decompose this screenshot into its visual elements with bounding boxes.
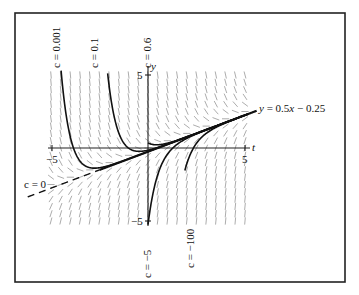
- slope-segment: [225, 181, 226, 188]
- slope-segment: [215, 71, 216, 78]
- slope-segment: [118, 93, 119, 100]
- slope-segment: [157, 181, 159, 188]
- tick-label-x-neg5: −5: [46, 153, 58, 165]
- slope-segment: [203, 117, 209, 121]
- slope-segment: [108, 137, 111, 144]
- curve-c-neg100: [185, 114, 249, 171]
- slope-segment: [234, 86, 237, 93]
- slope-segment: [70, 93, 71, 100]
- slope-segment: [136, 138, 141, 143]
- slope-segment: [68, 182, 74, 186]
- slope-segment: [206, 203, 207, 210]
- slope-segment: [87, 175, 93, 179]
- slope-segment: [156, 159, 159, 165]
- slope-segment: [68, 160, 72, 166]
- slope-segment: [215, 203, 216, 210]
- slope-segment: [225, 166, 226, 173]
- slope-segment: [165, 123, 169, 129]
- slope-segment: [118, 210, 119, 217]
- slope-segment: [118, 86, 119, 93]
- slope-segment: [175, 116, 178, 122]
- slope-segment: [225, 174, 226, 181]
- slope-segment: [235, 217, 236, 224]
- slope-segment: [245, 210, 246, 217]
- slope-segment: [117, 174, 120, 180]
- slope-segment: [223, 109, 229, 113]
- slope-segment: [96, 161, 103, 164]
- slope-segment: [60, 79, 61, 86]
- slope-segment: [80, 108, 81, 115]
- slope-segment: [60, 137, 62, 144]
- slope-segment: [245, 217, 246, 224]
- slope-segment: [89, 130, 91, 137]
- slope-segment: [60, 123, 61, 130]
- slope-segment: [215, 174, 216, 181]
- slope-segment: [127, 181, 129, 188]
- slope-segment: [79, 123, 80, 130]
- slope-segment: [157, 210, 158, 217]
- slope-segment: [89, 217, 90, 224]
- slope-segment: [215, 79, 217, 86]
- slope-segment: [206, 188, 207, 195]
- slope-segment: [99, 203, 101, 210]
- slope-segment: [70, 108, 71, 115]
- label-c-01: c = 0.1: [88, 38, 100, 68]
- slope-segment: [137, 174, 140, 181]
- slope-segment: [108, 130, 110, 137]
- slope-segment: [99, 79, 100, 86]
- slope-segment: [89, 108, 90, 115]
- slope-segment: [97, 175, 102, 180]
- slope-segment: [50, 203, 53, 210]
- slope-segment: [98, 196, 100, 203]
- slope-segment: [157, 79, 158, 86]
- slope-segment: [109, 210, 110, 217]
- slope-segment: [235, 203, 236, 210]
- slope-segment: [88, 189, 91, 196]
- slope-segment: [176, 159, 179, 166]
- slope-segment: [205, 152, 207, 159]
- slope-segment: [79, 203, 81, 210]
- slope-segment: [176, 101, 178, 108]
- slope-segment: [128, 108, 130, 115]
- slope-segment: [138, 93, 139, 100]
- slope-segment: [234, 130, 237, 136]
- slope-segment: [196, 217, 197, 224]
- slope-segment: [89, 123, 91, 130]
- slope-segment: [48, 175, 54, 179]
- slope-segment: [206, 71, 207, 78]
- slope-segment: [50, 218, 52, 225]
- slope-segment: [89, 196, 91, 203]
- slope-segment: [234, 79, 236, 86]
- slope-segment: [58, 167, 63, 172]
- slope-segment: [235, 159, 236, 166]
- slope-segment: [69, 210, 71, 217]
- slope-segment: [204, 109, 208, 115]
- slope-segment: [99, 86, 100, 93]
- slope-segment: [128, 210, 129, 217]
- slope-segment: [59, 203, 62, 210]
- slope-segment: [214, 131, 219, 136]
- slope-segment: [186, 86, 188, 93]
- slope-segment: [196, 86, 198, 93]
- slope-segment: [244, 174, 245, 181]
- slope-segment: [118, 71, 119, 78]
- slope-segment: [70, 101, 71, 108]
- slope-segment: [177, 217, 178, 224]
- slope-segment: [243, 94, 247, 100]
- t-axis-label: t: [252, 141, 256, 153]
- slope-segment: [184, 124, 190, 128]
- slope-segment: [70, 86, 71, 93]
- slope-segment: [194, 116, 199, 121]
- slope-segment: [166, 108, 168, 115]
- slope-segment: [244, 79, 246, 86]
- label-c-neg100: c = −100: [184, 228, 196, 268]
- slope-segment: [108, 115, 110, 122]
- slope-segment: [118, 181, 121, 188]
- slope-segment: [215, 86, 217, 93]
- slope-segment: [186, 93, 188, 100]
- slope-segment: [137, 115, 139, 122]
- slope-segment: [225, 188, 226, 195]
- slope-segment: [99, 115, 100, 122]
- slope-segment: [70, 123, 71, 130]
- slope-segment: [213, 118, 220, 121]
